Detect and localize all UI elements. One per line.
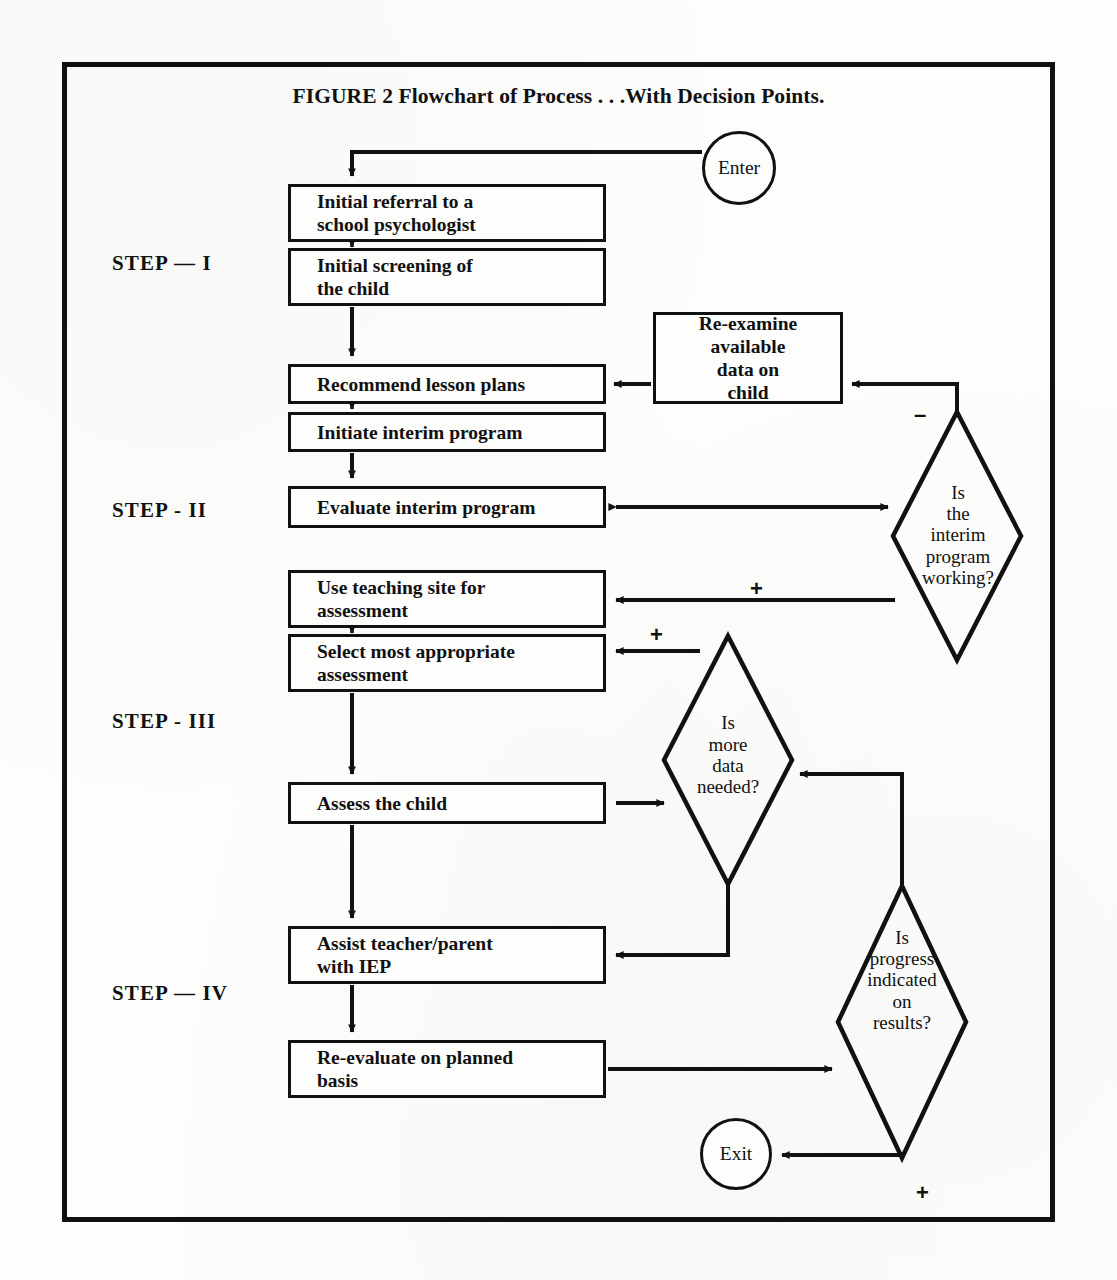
terminator-exit-label: Exit xyxy=(720,1143,753,1165)
process-box-re-examine-available-data[interactable]: Re-examine available data on child xyxy=(653,312,843,404)
step-label-1: STEP — I xyxy=(112,251,212,276)
edge-sign-plus-select: + xyxy=(650,624,663,646)
process-box-initial-referral-label: Initial referral to a school psychologis… xyxy=(317,190,476,236)
process-box-assist-teacher-parent-label: Assist teacher/parent with IEP xyxy=(317,932,493,978)
figure-page: FIGURE 2 Flowchart of Process . . .With … xyxy=(0,0,1117,1280)
terminator-enter[interactable]: Enter xyxy=(702,131,776,205)
edge-sign-minus-interim: – xyxy=(914,404,926,426)
process-box-re-evaluate-planned[interactable]: Re-evaluate on planned basis xyxy=(288,1040,606,1098)
process-box-evaluate-interim-program[interactable]: Evaluate interim program xyxy=(288,486,606,528)
process-box-initial-referral[interactable]: Initial referral to a school psychologis… xyxy=(288,184,606,242)
process-box-select-most-appropriate[interactable]: Select most appropriate assessment xyxy=(288,634,606,692)
process-box-evaluate-interim-program-label: Evaluate interim program xyxy=(317,496,535,519)
step-label-2: STEP - II xyxy=(112,498,207,523)
edge-sign-plus-teaching: + xyxy=(750,578,763,600)
figure-title: FIGURE 2 Flowchart of Process . . .With … xyxy=(0,84,1117,109)
process-box-re-evaluate-planned-label: Re-evaluate on planned basis xyxy=(317,1046,513,1092)
process-box-initial-screening-label: Initial screening of the child xyxy=(317,254,473,300)
step-label-3: STEP - III xyxy=(112,709,216,734)
process-box-recommend-lesson-plans[interactable]: Recommend lesson plans xyxy=(288,364,606,404)
process-box-re-examine-available-data-label: Re-examine available data on child xyxy=(699,312,798,404)
process-box-initiate-interim-program-label: Initiate interim program xyxy=(317,421,522,444)
step-label-4: STEP — IV xyxy=(112,981,228,1006)
edge-sign-plus-exit: + xyxy=(916,1182,929,1204)
process-box-assist-teacher-parent[interactable]: Assist teacher/parent with IEP xyxy=(288,926,606,984)
terminator-enter-label: Enter xyxy=(718,157,760,179)
process-box-assess-the-child[interactable]: Assess the child xyxy=(288,782,606,824)
process-box-assess-the-child-label: Assess the child xyxy=(317,792,447,815)
process-box-select-most-appropriate-label: Select most appropriate assessment xyxy=(317,640,515,686)
process-box-initiate-interim-program[interactable]: Initiate interim program xyxy=(288,412,606,452)
process-box-use-teaching-site-label: Use teaching site for assessment xyxy=(317,576,485,622)
terminator-exit[interactable]: Exit xyxy=(700,1118,772,1190)
process-box-use-teaching-site[interactable]: Use teaching site for assessment xyxy=(288,570,606,628)
process-box-recommend-lesson-plans-label: Recommend lesson plans xyxy=(317,373,525,396)
process-box-initial-screening[interactable]: Initial screening of the child xyxy=(288,248,606,306)
